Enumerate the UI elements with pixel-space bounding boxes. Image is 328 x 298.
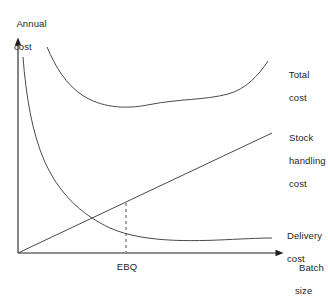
series-label-delivery-cost: Delivery cost [276,218,322,276]
series-stock-handling-cost-line [18,133,272,253]
ebq-axis-tick-label: EBQ [112,261,142,273]
series-delivery-cost-curve [23,57,272,241]
stock-cost-label-line1: Stock [289,132,313,143]
total-cost-label-line1: Total [289,69,310,80]
series-label-stock-handling-cost: Stock handling cost [278,120,326,201]
total-cost-label-line2: cost [289,92,307,103]
series-label-total-cost: Total cost [278,57,309,115]
x-axis-label-line2: size [288,285,324,297]
y-axis-label: Annual cost [6,6,47,75]
y-axis-label-line1: Annual [16,18,46,29]
stock-cost-label-line3: cost [289,178,307,189]
delivery-cost-label-line1: Delivery [287,230,322,241]
delivery-cost-label-line2: cost [287,253,305,264]
stock-cost-label-line2: handling [289,155,326,166]
y-axis-label-line2: cost [6,41,47,53]
series-total-cost-curve [47,47,268,107]
